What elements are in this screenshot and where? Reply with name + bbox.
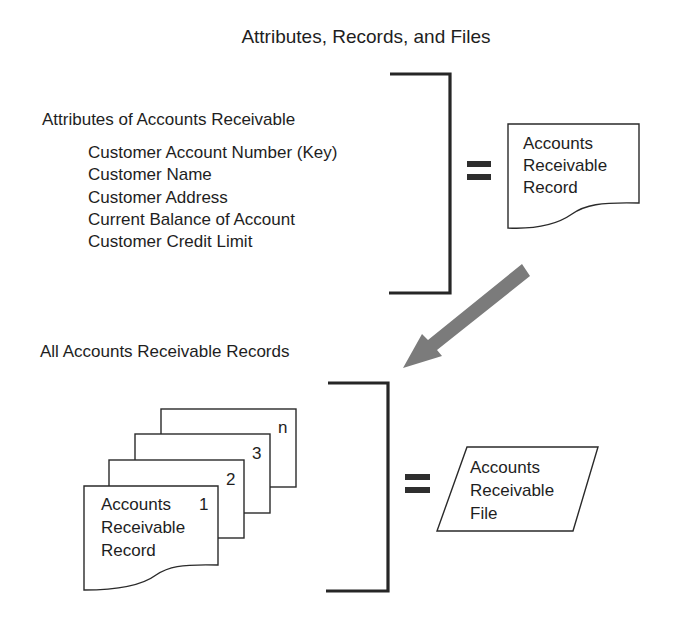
equals-icon	[467, 161, 491, 180]
attributes-heading: Attributes of Accounts Receivable	[42, 110, 295, 129]
record-number: 1	[199, 495, 208, 514]
record-document-shape: Accounts Receivable Record	[508, 124, 639, 228]
record-label-line: Accounts	[523, 134, 593, 153]
file-label-line: File	[470, 504, 497, 523]
file-label-line: Accounts	[470, 458, 540, 477]
attributes-list: Attributes of Accounts Receivable Custom…	[42, 110, 337, 251]
record-label-line: Accounts	[101, 495, 171, 514]
record-label-line: Receivable	[101, 518, 185, 537]
file-label-line: Receivable	[470, 481, 554, 500]
equals-icon	[405, 474, 430, 493]
record-label-line: Record	[523, 178, 578, 197]
record-card-1: Accounts 1 Receivable Record	[84, 486, 218, 590]
record-number: n	[278, 418, 287, 437]
record-number: 3	[252, 444, 261, 463]
attribute-item: Customer Address	[88, 188, 228, 207]
record-label-line: Receivable	[523, 156, 607, 175]
records-heading: All Accounts Receivable Records	[40, 342, 289, 361]
file-shape: Accounts Receivable File	[437, 447, 598, 531]
attributes-records-files-diagram: Attributes, Records, and Files Attribute…	[0, 0, 678, 627]
attribute-item: Customer Credit Limit	[88, 232, 253, 251]
attribute-item: Current Balance of Account	[88, 210, 295, 229]
record-stack: n 3 2 Accounts 1 Receivable Record	[84, 409, 296, 590]
diagram-title: Attributes, Records, and Files	[241, 26, 490, 47]
attribute-item: Customer Name	[88, 165, 212, 184]
record-number: 2	[226, 470, 235, 489]
records-bracket	[326, 383, 388, 591]
record-label-line: Record	[101, 541, 156, 560]
attribute-item: Customer Account Number (Key)	[88, 143, 337, 162]
arrow-down-left-icon	[403, 264, 530, 368]
attributes-bracket	[389, 74, 450, 293]
